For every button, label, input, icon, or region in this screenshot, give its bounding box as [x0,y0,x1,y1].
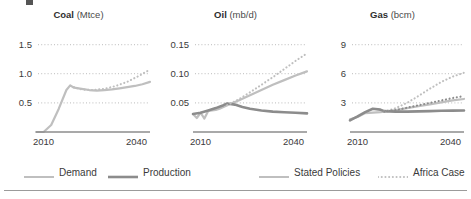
y-tick-label: 0.5 [19,98,32,108]
chart-panel-gas: Gas (bcm) 36920102040 [314,6,471,162]
series-line-africa-case [227,53,307,105]
x-tick-label: 2040 [283,137,304,147]
legend-item-demand: Demand [24,166,97,180]
bottom-divider [4,190,467,191]
chart-panels: Coal (Mtce) 0.51.01.520102040 Oil (mb/d)… [0,6,471,162]
legend-item-production: Production [108,166,191,180]
legend-label-stated-policies: Stated Policies [294,167,360,179]
chart-panel-coal: Coal (Mtce) 0.51.01.520102040 [0,6,157,162]
legend-swatch-stated-policies [259,168,289,178]
legend-label-africa-case: Africa Case [413,167,465,179]
y-tick-label: 1.0 [19,69,32,79]
y-tick-label: 0.10 [171,69,190,79]
y-tick-label: 0.15 [171,40,190,50]
y-tick-label: 3 [341,98,346,108]
y-tick-label: 1.5 [19,40,32,50]
y-tick-label: 9 [341,40,346,50]
figure-root: Coal (Mtce) 0.51.01.520102040 Oil (mb/d)… [0,0,471,199]
legend-label-production: Production [143,167,191,179]
legend-swatch-africa-case [378,168,408,178]
x-tick-label: 2040 [440,137,461,147]
legend-swatch-production [108,168,138,178]
x-tick-label: 2010 [33,137,54,147]
legend-label-demand: Demand [59,167,97,179]
chart-panel-oil: Oil (mb/d) 0.050.100.1520102040 [157,6,314,162]
x-tick-label: 2010 [347,137,368,147]
series-line-production [193,103,307,113]
series-line-production [350,109,464,121]
series-line-demand [350,99,464,119]
y-tick-label: 0.05 [171,98,190,108]
legend-swatch-demand [24,168,54,178]
x-tick-label: 2040 [126,137,147,147]
top-crop-artifact [26,0,33,5]
legend-item-stated-policies: Stated Policies [259,166,360,180]
y-tick-label: 6 [341,69,346,79]
legend-item-africa-case: Africa Case [378,166,465,180]
x-tick-label: 2010 [190,137,211,147]
series-line-demand [36,82,150,132]
chart-legend: Demand Production Stated Policies Africa… [0,163,471,187]
series-line-africa-case [70,70,150,90]
